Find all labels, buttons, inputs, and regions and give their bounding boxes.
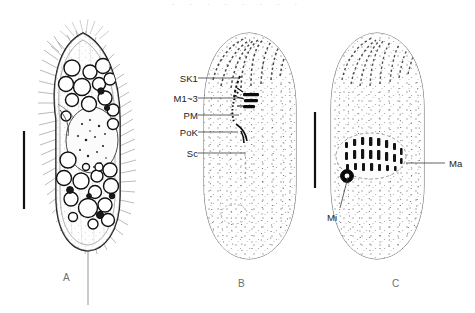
panel-letter-b: B	[238, 278, 245, 289]
figure-drawing	[0, 0, 475, 313]
label-sk1: SK1	[140, 73, 198, 84]
panel-a-drawing	[38, 19, 136, 305]
figure-plate: · · · · · · · ·	[0, 0, 475, 313]
label-sc: Sc	[140, 148, 198, 159]
panel-letter-c: C	[392, 278, 399, 289]
label-pok: PoK	[140, 127, 198, 138]
label-ma: Ma	[449, 158, 462, 169]
label-pm: PM	[140, 110, 198, 121]
panel-letter-a: A	[63, 272, 70, 283]
panel-c-drawing	[327, 30, 429, 262]
label-mi: Mi	[327, 212, 337, 223]
label-m1-3: M1~3	[140, 93, 198, 104]
panel-b-drawing	[200, 30, 300, 262]
